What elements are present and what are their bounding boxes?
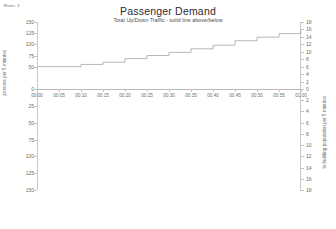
- y-axis-right-label: 6: [306, 120, 309, 126]
- y-axis-right-tick: [300, 179, 304, 180]
- x-axis-tick: [37, 89, 38, 92]
- y-axis-left-tick: [34, 190, 37, 191]
- x-axis-label: 00:45: [229, 93, 241, 99]
- y-axis-right-tick: [300, 82, 304, 83]
- x-axis-tick: [235, 89, 236, 92]
- x-axis-tick: [81, 89, 82, 92]
- y-axis-left-tick: [34, 22, 37, 23]
- y-axis-left-label: 50: [28, 64, 34, 70]
- x-axis-tick: [213, 89, 214, 92]
- y-axis-left-title: persons per 5 minutes: [2, 50, 7, 95]
- y-axis-right-label: 16: [306, 176, 312, 182]
- x-axis-tick: [103, 89, 104, 92]
- chart-plot-area: 1501251007550025507510012515018161412108…: [37, 22, 301, 190]
- x-axis-tick: [125, 89, 126, 92]
- y-axis-right-label-zero: 0: [306, 86, 309, 92]
- y-axis-right-tick: [300, 168, 304, 169]
- x-axis-tick: [191, 89, 192, 92]
- y-axis-right-tick: [300, 123, 304, 124]
- y-axis-right-tick: [300, 29, 304, 30]
- y-axis-right-title: % building population per 5 minutes: [322, 96, 327, 169]
- y-axis-left-tick: [34, 156, 37, 157]
- y-axis-left-tick: [34, 140, 37, 141]
- y-axis-right-label: 18: [306, 19, 312, 25]
- y-axis-right-tick: [300, 156, 304, 157]
- y-axis-left-label: 150: [26, 19, 34, 25]
- y-axis-left-tick: [34, 33, 37, 34]
- y-axis-left-tick: [34, 56, 37, 57]
- x-axis-label: 00:20: [119, 93, 131, 99]
- x-axis-label: 01:00: [295, 93, 307, 99]
- y-axis-left-tick: [34, 106, 37, 107]
- x-axis-tick: [147, 89, 148, 92]
- x-axis-label: 00:00: [31, 93, 43, 99]
- x-axis-label: 00:50: [251, 93, 263, 99]
- y-axis-left-tick: [34, 67, 37, 68]
- x-axis-label: 00:25: [141, 93, 153, 99]
- y-axis-right-label: 6: [306, 64, 309, 70]
- x-axis-label: 00:05: [53, 93, 65, 99]
- y-axis-left-tick: [34, 44, 37, 45]
- x-axis-label: 00:35: [185, 93, 197, 99]
- y-axis-left-label: 75: [28, 53, 34, 59]
- y-axis-right-label: 12: [306, 153, 312, 159]
- y-axis-right-label: 18: [306, 187, 312, 193]
- x-axis-tick: [59, 89, 60, 92]
- y-axis-right-label: 8: [306, 56, 309, 62]
- y-axis-right-label: 8: [306, 131, 309, 137]
- y-axis-left-label: 25: [28, 103, 34, 109]
- y-axis-left-label: 100: [26, 153, 34, 159]
- y-axis-left-tick: [34, 173, 37, 174]
- x-axis-tick: [279, 89, 280, 92]
- y-axis-right-tick: [300, 37, 304, 38]
- y-axis-left-tick: [34, 123, 37, 124]
- x-axis-label: 00:10: [75, 93, 87, 99]
- y-axis-right-label: 2: [306, 79, 309, 85]
- y-axis-right-tick: [300, 111, 304, 112]
- x-axis-tick: [257, 89, 258, 92]
- y-axis-right-tick: [300, 134, 304, 135]
- page-title: Passenger Demand: [0, 5, 336, 17]
- x-axis-label: 00:30: [163, 93, 175, 99]
- y-axis-right-label: 4: [306, 108, 309, 114]
- y-axis-right-tick: [300, 100, 304, 101]
- y-axis-left-label: 150: [26, 187, 34, 193]
- y-axis-right-tick: [300, 44, 304, 45]
- y-axis-right-tick: [300, 22, 304, 23]
- y-axis-right-label: 12: [306, 41, 312, 47]
- y-axis-left-label: 125: [26, 30, 34, 36]
- x-axis-tick: [301, 89, 302, 92]
- y-axis-right-label: 14: [306, 165, 312, 171]
- y-axis-right-tick: [300, 190, 304, 191]
- x-axis-label: 00:15: [97, 93, 109, 99]
- y-axis-right-tick: [300, 67, 304, 68]
- y-axis-right-tick: [300, 52, 304, 53]
- y-axis-right-tick: [300, 74, 304, 75]
- y-axis-left-label: 125: [26, 170, 34, 176]
- series-up-traffic: [37, 22, 301, 190]
- y-axis-right-label: 10: [306, 142, 312, 148]
- y-axis-left-label: 100: [26, 41, 34, 47]
- y-axis-left-label: 50: [28, 120, 34, 126]
- y-axis-right-label: 14: [306, 34, 312, 40]
- x-axis-label: 00:55: [273, 93, 285, 99]
- y-axis-right-label: 16: [306, 26, 312, 32]
- y-axis-right-label: 4: [306, 71, 309, 77]
- y-axis-right-label: 10: [306, 49, 312, 55]
- y-axis-right-tick: [300, 145, 304, 146]
- y-axis-left-label: 75: [28, 137, 34, 143]
- x-axis-label: 00:40: [207, 93, 219, 99]
- y-axis-right-tick: [300, 59, 304, 60]
- x-axis-tick: [169, 89, 170, 92]
